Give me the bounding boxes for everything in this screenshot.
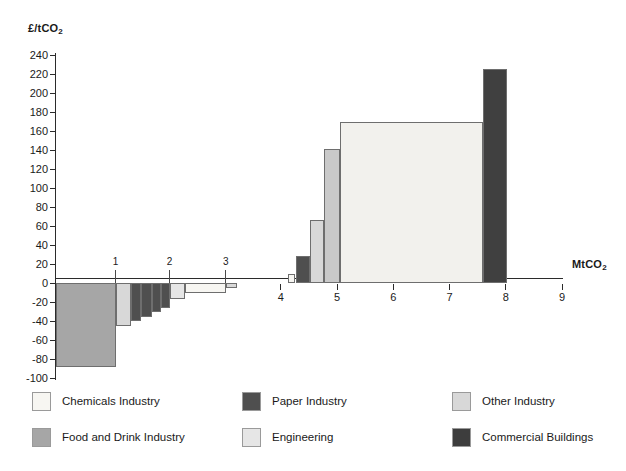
- y-axis-tick: [50, 245, 56, 246]
- y-axis-tick-label: 0: [8, 278, 48, 289]
- legend-label: Paper Industry: [272, 395, 347, 408]
- bar-chemicals-industry: [340, 122, 483, 284]
- legend-swatch-icon: [242, 392, 261, 411]
- y-axis-tick-label: -60: [8, 335, 48, 346]
- y-axis-tick-label: 100: [8, 183, 48, 194]
- bar-food-and-drink-industry: [56, 283, 116, 367]
- annotation-leader-line: [225, 270, 226, 283]
- y-axis-tick-label: 240: [8, 50, 48, 61]
- y-axis-title-subscript: 2: [58, 27, 63, 36]
- bar-engineering: [324, 149, 340, 283]
- legend-swatch-icon: [32, 428, 51, 447]
- x-axis-tick-label: 8: [496, 292, 516, 303]
- y-axis-tick: [50, 207, 56, 208]
- y-axis-tick: [50, 378, 56, 379]
- legend-item[interactable]: Commercial Buildings: [452, 428, 593, 447]
- y-axis-tick: [50, 150, 56, 151]
- legend-label: Chemicals Industry: [62, 395, 160, 408]
- annotation-leader-line: [169, 270, 170, 283]
- bar-paper-industry: [161, 283, 170, 308]
- y-axis-tick-label: 160: [8, 126, 48, 137]
- x-axis-tick-label: 9: [552, 292, 572, 303]
- y-axis-tick-label: -40: [8, 316, 48, 327]
- x-axis-tick: [337, 284, 338, 290]
- x-axis-tick-label: 4: [271, 292, 291, 303]
- legend-swatch-icon: [452, 428, 471, 447]
- y-axis-tick-label: 180: [8, 107, 48, 118]
- y-axis-tick: [50, 131, 56, 132]
- x-axis-title: MtCO2: [572, 258, 607, 272]
- bar-paper-industry: [141, 283, 151, 317]
- legend-item[interactable]: Food and Drink Industry: [32, 428, 185, 447]
- chart-legend: Chemicals IndustryPaper IndustryOther In…: [32, 392, 602, 458]
- y-axis-tick-label: 20: [8, 259, 48, 270]
- y-axis-tick-label: 220: [8, 69, 48, 80]
- chart-container: £/tCO2 MtCO2 240220200180160140120100806…: [0, 0, 626, 471]
- y-axis-tick-label: 60: [8, 221, 48, 232]
- y-axis-tick-label: 40: [8, 240, 48, 251]
- x-axis-tick-label: 5: [327, 292, 347, 303]
- legend-item[interactable]: Engineering: [242, 428, 333, 447]
- bar-paper-industry: [152, 283, 161, 312]
- y-axis-title: £/tCO2: [28, 22, 63, 36]
- y-axis-tick: [50, 74, 56, 75]
- legend-swatch-icon: [452, 392, 471, 411]
- y-axis-tick-label: 80: [8, 202, 48, 213]
- y-axis-tick: [50, 226, 56, 227]
- bar-other-industry: [226, 283, 237, 288]
- bar-engineering: [170, 283, 186, 299]
- y-axis-tick: [50, 264, 56, 265]
- legend-label: Food and Drink Industry: [62, 431, 185, 444]
- bar-paper-industry: [296, 256, 311, 283]
- x-axis-title-subscript: 2: [602, 263, 607, 272]
- x-axis-tick: [505, 284, 506, 290]
- x-axis-tick: [393, 284, 394, 290]
- y-axis-tick: [50, 188, 56, 189]
- annotation-label: 1: [109, 257, 123, 267]
- y-axis-tick: [50, 169, 56, 170]
- legend-label: Commercial Buildings: [482, 431, 593, 444]
- y-axis-tick-label: -100: [8, 373, 48, 384]
- bar-chemicals-industry: [185, 283, 225, 293]
- legend-label: Engineering: [272, 431, 333, 444]
- y-axis-tick-label: -80: [8, 354, 48, 365]
- x-axis-title-text: MtCO: [572, 258, 602, 270]
- legend-label: Other Industry: [482, 395, 555, 408]
- y-axis-tick-label: 200: [8, 88, 48, 99]
- bar-commercial-buildings: [483, 69, 507, 283]
- legend-swatch-icon: [242, 428, 261, 447]
- y-axis-tick-label: -20: [8, 297, 48, 308]
- x-axis-tick: [449, 284, 450, 290]
- bar-other-industry: [116, 283, 131, 326]
- legend-item[interactable]: Other Industry: [452, 392, 555, 411]
- bar-paper-industry: [131, 283, 142, 321]
- legend-item[interactable]: Chemicals Industry: [32, 392, 160, 411]
- annotation-label: 2: [163, 257, 177, 267]
- bar-other-industry: [310, 220, 323, 283]
- x-axis-tick: [280, 284, 281, 290]
- y-axis-tick: [50, 93, 56, 94]
- x-axis-tick-label: 6: [383, 292, 403, 303]
- y-axis-tick: [50, 112, 56, 113]
- legend-swatch-icon: [32, 392, 51, 411]
- x-axis-tick-label: 7: [440, 292, 460, 303]
- y-axis-tick: [50, 55, 56, 56]
- bar-chemicals-industry: [288, 274, 296, 284]
- annotation-leader-line: [115, 270, 116, 283]
- x-axis-tick: [562, 284, 563, 290]
- y-axis-tick-label: 120: [8, 164, 48, 175]
- y-axis-tick-label: 140: [8, 145, 48, 156]
- annotation-label: 3: [219, 257, 233, 267]
- y-axis-title-text: £/tCO: [28, 22, 58, 34]
- legend-item[interactable]: Paper Industry: [242, 392, 347, 411]
